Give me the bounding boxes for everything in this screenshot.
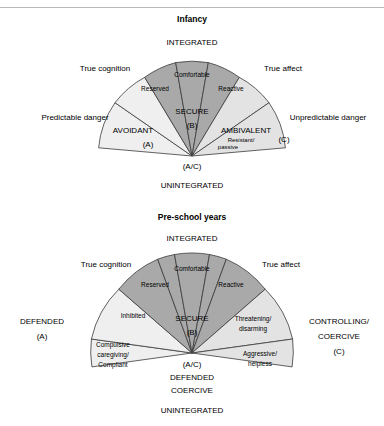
infancy-unpredictable-danger-label: Unpredictable danger	[290, 113, 367, 122]
infancy-ambivalent-code: (C)	[278, 135, 289, 144]
preschool-controlling-line3: (C)	[333, 347, 344, 356]
preschool-secure-label: SECURE	[175, 314, 208, 323]
infancy-reserved-label: Reserved	[141, 85, 169, 92]
preschool-reactive-label: Reactive	[218, 281, 244, 288]
preschool-reserved-label: Reserved	[141, 281, 169, 288]
preschool-apex-sub1: DEFENDED	[170, 373, 214, 382]
infancy-avoidant-label: AVOIDANT	[113, 126, 153, 135]
page-header-rule: · · · ·	[0, 0, 384, 8]
preschool-threatening-line1: Threatening/	[235, 315, 272, 323]
preschool-threatening-line2: disarming	[239, 325, 268, 333]
preschool-title: Pre-school years	[158, 212, 227, 222]
figure-page: · · · · Infancy INTEGRATED UNINTEGRATED …	[0, 0, 384, 426]
infancy-secure-code: (B)	[187, 121, 198, 130]
preschool-defended-line1: DEFENDED	[20, 317, 64, 326]
preschool-true-cognition-label: True cognition	[81, 260, 131, 269]
preschool-secure-code: (B)	[187, 328, 198, 337]
preschool-aggressive-line1: Aggressive/	[243, 350, 277, 358]
infancy-ambivalent-label: AMBIVALENT	[221, 126, 271, 135]
preschool-apex-sub2: COERCIVE	[171, 386, 213, 395]
header-crumb-right: · ·	[352, 0, 356, 4]
preschool-controlling-line2: COERCIVE	[318, 332, 360, 341]
infancy-true-cognition-label: True cognition	[80, 64, 130, 73]
infancy-avoidant-code: (A)	[143, 140, 154, 149]
infancy-resistant-line2: passive	[218, 144, 239, 150]
infancy-secure-label: SECURE	[175, 107, 208, 116]
preschool-unintegrated-label: UNINTEGRATED	[161, 406, 224, 415]
preschool-controlling-line1: CONTROLLING/	[309, 317, 370, 326]
infancy-unintegrated-label: UNINTEGRATED	[161, 181, 224, 190]
header-crumb-left: · ·	[290, 0, 294, 4]
preschool-apex-label: (A/C)	[183, 360, 202, 369]
infancy-comfortable-label: Comfortable	[174, 71, 210, 78]
preschool-compulsive-line3: Compliant	[98, 361, 127, 369]
preschool-true-affect-label: True affect	[262, 260, 301, 269]
infancy-true-affect-label: True affect	[264, 64, 303, 73]
preschool-compulsive-line1: Compulsive	[96, 341, 130, 349]
preschool-comfortable-label: Comfortable	[174, 265, 210, 272]
infancy-predictable-danger-label: Predictable danger	[41, 113, 108, 122]
infancy-resistant-line1: Resistant/	[228, 137, 255, 143]
preschool-compulsive-line2: caregiving/	[97, 351, 129, 359]
infancy-apex-label: (A/C)	[183, 162, 202, 171]
preschool-inhibited-label: Inhibited	[121, 312, 146, 319]
preschool-diagram: Pre-school years INTEGRATED UNINTEGRATED…	[0, 208, 384, 423]
preschool-defended-line2: (A)	[37, 332, 48, 341]
infancy-integrated-label: INTEGRATED	[167, 38, 218, 47]
infancy-diagram: Infancy INTEGRATED UNINTEGRATED Predicta…	[0, 8, 384, 208]
infancy-reactive-label: Reactive	[218, 85, 244, 92]
infancy-title: Infancy	[177, 14, 207, 24]
preschool-aggressive-line2: helpless	[248, 360, 273, 368]
preschool-integrated-label: INTEGRATED	[167, 234, 218, 243]
